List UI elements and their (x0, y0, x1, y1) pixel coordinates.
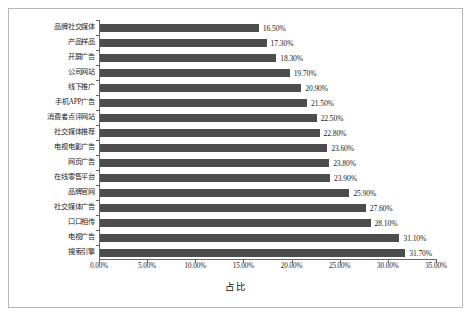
bar-row: 18.30% (100, 50, 437, 65)
x-axis-tick-label: 35.00% (425, 262, 447, 270)
bar (100, 249, 405, 257)
x-axis-tick-label: 5.00% (138, 262, 156, 270)
bar-value-label: 25.90% (353, 188, 376, 197)
category-label: 开屏广告 (13, 50, 99, 65)
category-label: 公司网站 (13, 65, 99, 80)
x-axis-tick-label: 30.00% (377, 262, 399, 270)
category-label: 电视广告 (13, 230, 99, 245)
bar-value-label: 28.10% (375, 218, 398, 227)
bar-value-label: 23.90% (334, 173, 357, 182)
bar-row: 17.30% (100, 35, 437, 50)
y-axis-tick (96, 200, 99, 201)
y-axis-tick (96, 230, 99, 231)
category-label: 手机APP广告 (13, 95, 99, 110)
category-label: 产品样品 (13, 35, 99, 50)
y-axis-tick (96, 215, 99, 216)
category-label: 口口相传 (13, 215, 99, 230)
chart-frame: 品牌社交媒体产品样品开屏广告公司网站线下推广手机APP广告消费者点评网站社交媒体… (8, 8, 463, 308)
bar-row: 20.90% (100, 80, 437, 95)
bar-value-label: 19.70% (294, 68, 317, 77)
bar (100, 54, 276, 62)
bar-row: 25.90% (100, 185, 437, 200)
bar-row: 22.80% (100, 125, 437, 140)
y-axis-tick (96, 20, 99, 21)
x-axis-title: 占比 (9, 279, 462, 293)
bar-value-label: 21.50% (311, 98, 334, 107)
bar (100, 219, 371, 227)
y-axis-tick (96, 110, 99, 111)
bar-value-label: 31.10% (403, 233, 426, 242)
y-axis-tick (96, 140, 99, 141)
y-axis-tick (96, 80, 99, 81)
chart-plot-wrapper: 品牌社交媒体产品样品开屏广告公司网站线下推广手机APP广告消费者点评网站社交媒体… (9, 9, 462, 307)
bar (100, 99, 307, 107)
bar-value-label: 22.50% (321, 113, 344, 122)
bar-row: 27.60% (100, 200, 437, 215)
y-axis-tick (96, 95, 99, 96)
bar-value-label: 23.60% (331, 143, 354, 152)
category-label: 品牌官网 (13, 185, 99, 200)
bar-row: 23.90% (100, 170, 437, 185)
bar-row: 28.10% (100, 215, 437, 230)
category-label: 社交媒体推荐 (13, 125, 99, 140)
x-axis-tick-label: 15.00% (233, 262, 255, 270)
bar-row: 16.50% (100, 20, 437, 35)
bar (100, 234, 399, 242)
bar (100, 174, 330, 182)
bar-row: 22.50% (100, 110, 437, 125)
y-axis-tick (96, 65, 99, 66)
category-label: 电视电影广告 (13, 140, 99, 155)
bar-value-label: 20.90% (305, 83, 328, 92)
category-label: 线下推广 (13, 80, 99, 95)
category-label: 品牌社交媒体 (13, 20, 99, 35)
x-axis-tick-label: 25.00% (329, 262, 351, 270)
y-axis-tick (96, 35, 99, 36)
bar-value-label: 23.80% (333, 158, 356, 167)
bar-value-label: 27.60% (370, 203, 393, 212)
bar (100, 144, 327, 152)
bar-row: 23.80% (100, 155, 437, 170)
y-axis-tick (96, 185, 99, 186)
bar (100, 204, 366, 212)
category-axis-labels: 品牌社交媒体产品样品开屏广告公司网站线下推广手机APP广告消费者点评网站社交媒体… (13, 20, 99, 260)
x-axis-tick-labels: 0.00%5.00%10.00%15.00%20.00%25.00%30.00%… (99, 262, 437, 274)
bar-value-label: 17.30% (271, 38, 294, 47)
y-axis-tick (96, 170, 99, 171)
bar-row: 23.60% (100, 140, 437, 155)
bar (100, 129, 320, 137)
bar-row: 19.70% (100, 65, 437, 80)
bar-value-label: 16.50% (263, 23, 286, 32)
y-axis-tick (96, 155, 99, 156)
category-label: 在线零售平台 (13, 170, 99, 185)
bar (100, 24, 259, 32)
category-label: 搜索引擎 (13, 245, 99, 260)
category-label: 社交媒体广告 (13, 200, 99, 215)
x-axis-tick-label: 10.00% (185, 262, 207, 270)
category-label: 网页广告 (13, 155, 99, 170)
bar-row: 31.70% (100, 245, 437, 260)
x-axis-tick-label: 20.00% (281, 262, 303, 270)
category-label: 消费者点评网站 (13, 110, 99, 125)
bar-rows: 16.50%17.30%18.30%19.70%20.90%21.50%22.5… (100, 20, 437, 260)
bar (100, 84, 301, 92)
bar (100, 39, 267, 47)
bar-row: 21.50% (100, 95, 437, 110)
plot-area: 16.50%17.30%18.30%19.70%20.90%21.50%22.5… (99, 20, 437, 260)
bar (100, 159, 329, 167)
bar-value-label: 31.70% (409, 248, 432, 257)
bar (100, 69, 290, 77)
y-axis-tick (96, 50, 99, 51)
bar (100, 189, 349, 197)
bar-value-label: 18.30% (280, 53, 303, 62)
bar (100, 114, 317, 122)
y-axis-tick (96, 125, 99, 126)
y-axis-tick (96, 245, 99, 246)
bar-row: 31.10% (100, 230, 437, 245)
x-axis-tick-label: 0.00% (90, 262, 108, 270)
bar-value-label: 22.80% (324, 128, 347, 137)
